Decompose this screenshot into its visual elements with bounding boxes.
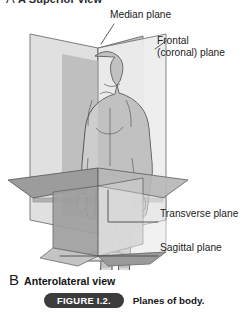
figure-caption: FIGURE I.2. Planes of body. <box>44 293 205 308</box>
label-frontal-coronal-plane: Frontal (coronal) plane <box>157 35 243 58</box>
leader-median <box>101 24 114 44</box>
label-frontal-line2: (coronal) plane <box>157 47 225 58</box>
panel-view-text: Anterolateral view <box>24 276 115 287</box>
label-frontal-line1: Frontal <box>157 35 189 46</box>
panel-letter: B <box>9 272 19 287</box>
label-transverse-plane: Transverse plane <box>160 208 238 220</box>
panel-b-caption: B Anterolateral view <box>9 272 115 287</box>
figure-number-pill: FIGURE I.2. <box>44 293 124 308</box>
label-sagittal-plane: Sagittal plane <box>160 242 222 254</box>
figure-caption-text: Planes of body. <box>133 295 205 306</box>
label-median-plane: Median plane <box>110 9 171 21</box>
cut-off-heading-text: A Superior view <box>18 0 102 5</box>
